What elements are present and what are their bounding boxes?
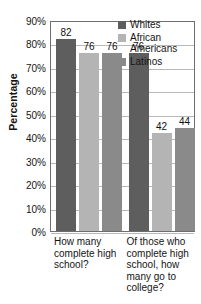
x-category-label: Of those who complete high school, how m… [123, 236, 196, 302]
bar [129, 53, 149, 231]
x-axis-category-labels: How many complete high school?Of those w… [50, 236, 195, 302]
bar-value-label: 44 [179, 116, 190, 127]
y-tick-label: 20% [26, 180, 46, 191]
y-tick-label: 30% [26, 156, 46, 167]
legend-swatch-icon [118, 58, 126, 66]
bar-value-label: 76 [83, 41, 94, 52]
legend-entry: African Americans [118, 32, 198, 55]
bar [102, 53, 122, 231]
x-category-label: How many complete high school? [50, 236, 123, 302]
y-axis-tick-labels: 90%80%70%60%50%40%30%20%10%0% [0, 0, 48, 304]
gridline [51, 233, 194, 234]
bar-value-label: 82 [60, 27, 71, 38]
legend-entry: Latinos [118, 56, 198, 68]
y-tick-label: 10% [26, 203, 46, 214]
bar [79, 53, 99, 231]
bar-chart-figure: Percentage 90%80%70%60%50%40%30%20%10%0%… [0, 0, 201, 304]
legend-label: Latinos [130, 56, 162, 68]
y-tick-label: 50% [26, 109, 46, 120]
y-tick-label: 0% [32, 227, 46, 238]
y-tick-label: 70% [26, 62, 46, 73]
legend-label: Whites [130, 19, 161, 31]
bar [152, 133, 172, 231]
y-tick-label: 40% [26, 133, 46, 144]
bar [56, 39, 76, 231]
chart-legend: WhitesAfrican AmericansLatinos [118, 19, 198, 68]
bar-value-label: 76 [106, 41, 117, 52]
y-tick-label: 90% [26, 16, 46, 27]
bar [175, 128, 195, 231]
y-tick-label: 60% [26, 86, 46, 97]
y-tick-label: 80% [26, 39, 46, 50]
legend-entry: Whites [118, 19, 198, 31]
legend-swatch-icon [118, 34, 126, 42]
bar-value-label: 42 [156, 121, 167, 132]
legend-swatch-icon [118, 21, 126, 29]
legend-label: African Americans [130, 32, 198, 55]
